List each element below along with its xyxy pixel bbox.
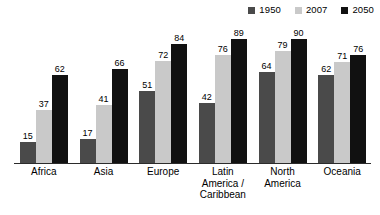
bar[interactable] [171, 44, 187, 163]
bar-value-label: 15 [23, 131, 33, 141]
bar-value-label: 51 [142, 80, 152, 90]
bar-cluster: 153762 [14, 28, 74, 163]
bar-item: 90 [291, 28, 307, 163]
bar-item: 41 [96, 28, 112, 163]
bar-value-label: 42 [202, 92, 212, 102]
bar-group: 174166 [74, 28, 134, 163]
bar-group: 647990 [253, 28, 313, 163]
bar[interactable] [334, 62, 350, 163]
category-label: Asia [74, 166, 134, 201]
bar-value-label: 89 [234, 28, 244, 38]
bar-group: 517284 [133, 28, 193, 163]
bar[interactable] [350, 55, 366, 163]
legend-label: 2050 [352, 5, 374, 15]
bar[interactable] [36, 110, 52, 163]
legend-item-2007[interactable]: 2007 [295, 5, 328, 15]
bar-value-label: 62 [55, 64, 65, 74]
legend-label: 2007 [306, 5, 328, 15]
bar-value-label: 64 [262, 61, 272, 71]
bar-value-label: 90 [294, 28, 304, 38]
category-label: Oceania [312, 166, 372, 201]
bar[interactable] [96, 105, 112, 163]
bar-item: 62 [318, 28, 334, 163]
bar-item: 84 [171, 28, 187, 163]
bar-item: 66 [112, 28, 128, 163]
bar-item: 62 [52, 28, 68, 163]
bar-item: 79 [275, 28, 291, 163]
bar-item: 72 [155, 28, 171, 163]
bar-cluster: 427689 [193, 28, 253, 163]
legend-swatch-icon [341, 7, 348, 14]
bar[interactable] [199, 103, 215, 163]
legend-item-2050[interactable]: 2050 [341, 5, 374, 15]
bar-item: 64 [259, 28, 275, 163]
category-axis-labels: AfricaAsiaEuropeLatin America / Caribbea… [14, 166, 372, 201]
bar-item: 51 [139, 28, 155, 163]
bar[interactable] [52, 75, 68, 163]
chart-legend: 195020072050 [248, 5, 374, 15]
x-axis-line [14, 163, 371, 164]
bar-item: 89 [231, 28, 247, 163]
bar-cluster: 517284 [133, 28, 193, 163]
bar-item: 42 [199, 28, 215, 163]
bar-value-label: 84 [174, 33, 184, 43]
bar-value-label: 71 [337, 51, 347, 61]
bar[interactable] [291, 39, 307, 163]
bar[interactable] [259, 72, 275, 163]
bar[interactable] [318, 75, 334, 163]
bar-item: 17 [80, 28, 96, 163]
legend-item-1950[interactable]: 1950 [248, 5, 281, 15]
bar-item: 15 [20, 28, 36, 163]
bar-value-label: 17 [82, 128, 92, 138]
bar-chart: 195020072050 153762174166517284427689647… [0, 0, 380, 215]
bar-group: 427689 [193, 28, 253, 163]
bar-value-label: 37 [39, 99, 49, 109]
bar-cluster: 174166 [74, 28, 134, 163]
bar-value-label: 41 [98, 94, 108, 104]
bar-value-label: 79 [278, 40, 288, 50]
category-label: Europe [133, 166, 193, 201]
bar-value-label: 62 [321, 64, 331, 74]
bar[interactable] [112, 69, 128, 163]
category-label: Latin America / Caribbean [193, 166, 253, 201]
bar-value-label: 72 [158, 50, 168, 60]
bar-groups: 153762174166517284427689647990627176 [14, 28, 372, 163]
category-label: Africa [14, 166, 74, 201]
plot-area: 153762174166517284427689647990627176 [14, 28, 372, 163]
bar[interactable] [80, 139, 96, 163]
bar-cluster: 627176 [312, 28, 372, 163]
bar[interactable] [155, 61, 171, 163]
bar[interactable] [231, 39, 247, 163]
bar[interactable] [215, 55, 231, 163]
bar-item: 76 [350, 28, 366, 163]
bar[interactable] [275, 51, 291, 163]
bar-item: 71 [334, 28, 350, 163]
bar-value-label: 76 [353, 44, 363, 54]
bar-item: 37 [36, 28, 52, 163]
legend-swatch-icon [295, 7, 302, 14]
bar-value-label: 66 [114, 58, 124, 68]
bar-item: 76 [215, 28, 231, 163]
legend-swatch-icon [248, 7, 255, 14]
legend-label: 1950 [259, 5, 281, 15]
bar-cluster: 647990 [253, 28, 313, 163]
bar-group: 627176 [312, 28, 372, 163]
category-label: North America [253, 166, 313, 201]
bar[interactable] [139, 91, 155, 163]
bar-value-label: 76 [218, 44, 228, 54]
bar-group: 153762 [14, 28, 74, 163]
bar[interactable] [20, 142, 36, 163]
